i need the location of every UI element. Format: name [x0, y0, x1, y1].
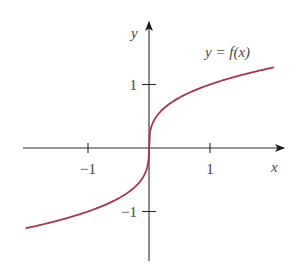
function-graph: −111−1 x y y = f(x)	[0, 0, 297, 268]
curve-label: y = f(x)	[203, 44, 250, 61]
x-axis-label: x	[270, 159, 278, 175]
y-tick-label: 1	[130, 77, 138, 93]
x-tick-label: −1	[80, 161, 96, 177]
y-axis-label: y	[129, 25, 138, 41]
y-tick-label: −1	[121, 204, 137, 220]
x-tick-label: 1	[206, 161, 214, 177]
